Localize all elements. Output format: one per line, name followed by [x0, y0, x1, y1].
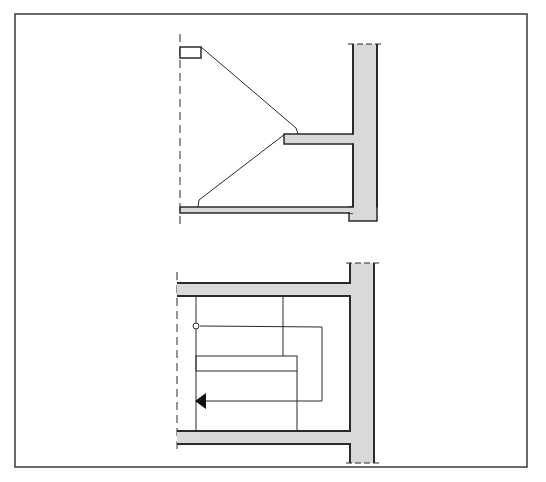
plan-wall — [350, 263, 374, 463]
walking-line-start-circle — [193, 323, 199, 329]
direction-arrow-icon — [195, 393, 206, 409]
plan-view — [177, 263, 380, 463]
wall-fill-join — [354, 205, 376, 209]
lower-flight-line — [198, 134, 285, 207]
section-wall — [353, 44, 377, 207]
top-landing-block — [180, 47, 201, 58]
plan-bottom-outline — [177, 444, 350, 463]
walking-line — [200, 326, 322, 401]
plan-inner-outline — [177, 296, 350, 431]
upper-flight-line — [201, 47, 298, 134]
plan-wall-outline-left — [177, 263, 350, 283]
drawing-frame — [15, 14, 527, 467]
landing-slab — [284, 134, 353, 144]
plan-bottom-slab — [177, 431, 351, 444]
plan-top-slab — [177, 283, 351, 296]
drawing-canvas — [0, 0, 546, 482]
section-view — [180, 34, 381, 228]
floor-slab — [180, 207, 353, 213]
stair-drawing — [0, 0, 546, 482]
landing-rect — [196, 356, 297, 371]
